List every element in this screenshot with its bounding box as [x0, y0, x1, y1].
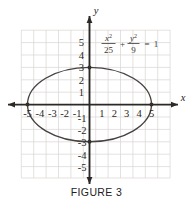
y-axis-arrow-top [87, 16, 93, 23]
equation-operator: + [120, 39, 125, 49]
y-tick-label--3: -3 [78, 137, 87, 148]
y-tick-label--5: -5 [78, 162, 87, 173]
y-tick-label--1: -1 [78, 113, 87, 124]
x-tick-label-3: 3 [124, 108, 129, 119]
y-tick-label-1: 1 [79, 87, 84, 98]
covertex-point-bottom [88, 140, 92, 144]
x-tick-label--3: -3 [48, 108, 57, 119]
x-axis-name: x [180, 92, 186, 103]
x-axis-arrow-left [8, 102, 15, 108]
x-tick-label--2: -2 [60, 108, 69, 119]
equation-annotation: x2 25 + y2 9 = 1 [102, 33, 159, 55]
equation-left-numerator: x2 [104, 33, 112, 43]
y-tick-label-2: 2 [79, 75, 84, 86]
equation-right-hand-side: 1 [154, 39, 159, 49]
x-tick-label-1: 1 [99, 108, 104, 119]
y-tick-label-4: 4 [79, 50, 85, 61]
x-tick-label-5: 5 [149, 108, 154, 119]
vertex-point-left [26, 103, 30, 107]
y-axis [87, 16, 93, 184]
x-tick-label--4: -4 [36, 108, 45, 119]
figure-3-container: -5 -4 -3 -2 -1 1 2 3 4 5 5 4 3 2 1 [0, 0, 193, 210]
x-axis-arrow-right [171, 102, 178, 108]
y-tick-label--2: -2 [78, 125, 87, 136]
y-axis-arrow-bottom [87, 177, 93, 184]
y-tick-label-5: 5 [79, 37, 84, 48]
figure-caption: FIGURE 3 [0, 186, 193, 198]
y-tick-label-3: 3 [79, 62, 84, 73]
coordinate-plot: -5 -4 -3 -2 -1 1 2 3 4 5 5 4 3 2 1 [0, 0, 193, 186]
y-axis-name: y [93, 5, 99, 16]
vertex-point-right [150, 103, 154, 107]
equation-right-numerator: y2 [129, 33, 137, 43]
equation-left-denominator: 25 [104, 45, 114, 55]
equation-equals-sign: = [144, 39, 149, 49]
x-tick-label-4: 4 [136, 108, 142, 119]
x-tick-label-2: 2 [112, 108, 117, 119]
covertex-point-top [88, 65, 92, 69]
equation-right-denominator: 9 [131, 45, 136, 55]
y-tick-labels-positive: 5 4 3 2 1 [79, 37, 85, 98]
y-tick-label--4: -4 [78, 150, 87, 161]
x-tick-label--5: -5 [23, 108, 32, 119]
y-tick-labels-negative: -1 -2 -3 -4 -5 [78, 113, 87, 174]
plot-svg: -5 -4 -3 -2 -1 1 2 3 4 5 5 4 3 2 1 [0, 0, 193, 186]
